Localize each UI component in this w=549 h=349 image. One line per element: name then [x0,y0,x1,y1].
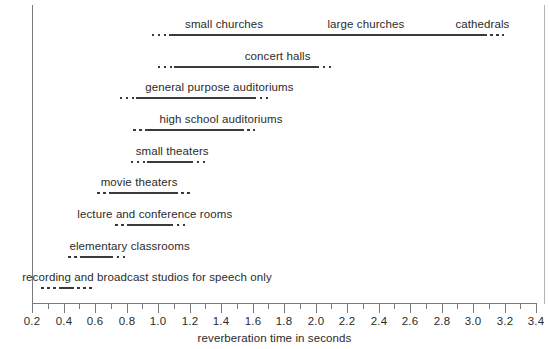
x-tick-label: 1.2 [182,315,198,327]
range-dotted-lower [131,161,147,163]
x-tick-label: 0.2 [24,315,40,327]
x-tick-major [32,304,33,313]
x-tick-major [347,304,348,313]
range-solid [111,192,176,194]
x-tick-major [316,304,317,313]
x-tick-label: 1.8 [276,315,292,327]
x-tick-major [221,304,222,313]
x-tick-label: 1.6 [245,315,261,327]
x-tick-label: 0.6 [87,315,103,327]
x-tick-major [473,304,474,313]
range-label: movie theaters [101,176,178,188]
x-tick-major [95,304,96,313]
axis-left-border [32,5,33,304]
range-label: large churches [327,18,404,30]
range-solid [147,129,242,131]
x-tick-label: 2.8 [434,315,450,327]
x-tick-label: 1.4 [213,315,229,327]
x-tick-minor [237,304,238,309]
x-tick-minor [457,304,458,309]
x-tick-minor [300,304,301,309]
range-dotted-lower [41,287,61,289]
axis-right-border [544,5,545,304]
x-tick-label: 0.4 [56,315,72,327]
x-tick-minor [174,304,175,309]
reverberation-time-chart: 0.20.40.60.81.01.21.41.61.82.02.22.42.62… [0,0,549,349]
range-label: small theaters [136,145,209,157]
range-solid [174,66,317,68]
x-tick-minor [331,304,332,309]
range-label: high school auditoriums [159,113,282,125]
range-label: lecture and conference rooms [77,208,232,220]
range-dotted-upper [171,224,188,226]
x-tick-label: 3.0 [465,315,481,327]
range-solid [147,161,191,163]
range-label: concert halls [245,50,311,62]
x-axis-title: reverberation time in seconds [0,332,549,344]
x-tick-major [64,304,65,313]
range-label: recording and broadcast studios for spee… [22,271,272,283]
range-label: cathedrals [455,18,509,30]
x-tick-major [505,304,506,313]
range-dotted-lower [158,66,174,68]
x-tick-label: 2.4 [371,315,387,327]
x-tick-label: 0.8 [119,315,135,327]
range-dotted-lower [120,97,136,99]
range-dotted-upper [71,287,91,289]
range-solid [62,287,71,289]
x-tick-minor [363,304,364,309]
range-dotted-upper [317,66,331,68]
range-solid [130,224,171,226]
range-dotted-upper [175,192,191,194]
range-solid [169,34,484,36]
range-dotted-upper [191,161,208,163]
range-label: small churches [185,18,263,30]
x-tick-minor [426,304,427,309]
x-tick-major [536,304,537,313]
x-tick-label: 3.4 [528,315,544,327]
x-tick-label: 2.0 [308,315,324,327]
x-tick-major [253,304,254,313]
x-tick-minor [79,304,80,309]
x-tick-major [379,304,380,313]
range-dotted-lower [115,224,129,226]
range-label: elementary classrooms [69,240,189,252]
x-tick-label: 3.2 [497,315,513,327]
range-dotted-upper [241,129,258,131]
x-tick-minor [142,304,143,309]
x-tick-minor [48,304,49,309]
range-dotted-upper [254,97,268,99]
range-label: general purpose auditoriums [145,81,293,93]
x-tick-major [158,304,159,313]
x-tick-label: 2.6 [402,315,418,327]
x-tick-major [410,304,411,313]
x-tick-label: 1.0 [150,315,166,327]
x-tick-minor [520,304,521,309]
x-tick-major [284,304,285,313]
range-dotted-upper [484,34,504,36]
x-tick-major [190,304,191,313]
range-solid [136,97,254,99]
x-tick-minor [268,304,269,309]
x-tick-minor [205,304,206,309]
x-tick-major [442,304,443,313]
range-dotted-lower [68,256,82,258]
range-solid [82,256,110,258]
x-tick-minor [489,304,490,309]
range-dotted-lower [133,129,147,131]
range-dotted-lower [152,34,169,36]
range-dotted-lower [97,192,111,194]
x-tick-major [127,304,128,313]
x-tick-minor [394,304,395,309]
x-tick-minor [111,304,112,309]
x-tick-label: 2.2 [339,315,355,327]
range-dotted-upper [111,256,128,258]
